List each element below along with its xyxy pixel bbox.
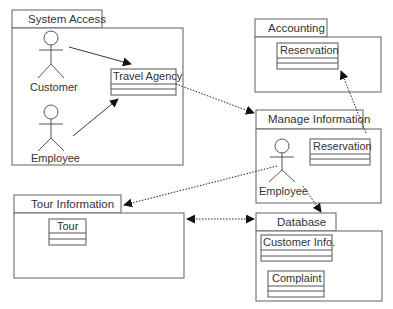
arrow-employee-to-tour-information	[124, 166, 277, 205]
class-label-complaint: Complaint	[272, 273, 322, 284]
package-body	[14, 213, 184, 278]
actor-label-customer: Customer	[30, 82, 78, 93]
class-label-manage-reservation: Reservation	[313, 141, 372, 152]
package-title-database: Database	[277, 217, 326, 229]
package-title-system-access: System Access	[28, 14, 106, 26]
package-title-manage-information: Manage Information	[268, 114, 370, 126]
arrow-travel-agency-to-manage-information	[176, 84, 254, 113]
class-label-travel-agency: Travel Agency	[113, 71, 182, 82]
package-title-tour-information: Tour Information	[31, 199, 114, 211]
class-label-tour: Tour	[57, 221, 78, 232]
class-label-accounting-reservation: Reservation	[280, 45, 339, 56]
actor-label-manage-employee: Employee	[259, 186, 308, 197]
package-title-accounting: Accounting	[268, 23, 325, 35]
actor-label-employee: Employee	[31, 153, 80, 164]
class-label-customer-info: Customer Info.	[263, 237, 335, 248]
package-body	[12, 28, 183, 165]
